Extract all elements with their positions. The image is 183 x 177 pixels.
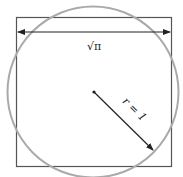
diagram-canvas: √π r = 1 — [0, 0, 183, 177]
side-length-label: √π — [87, 40, 101, 53]
radius-label: r = 1 — [120, 95, 149, 124]
